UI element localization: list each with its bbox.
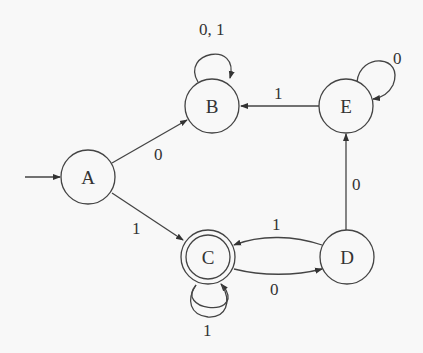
edge-label-c-c: 1 <box>203 321 212 340</box>
edge-label-a-c: 1 <box>132 219 141 238</box>
state-b: B <box>185 79 239 133</box>
state-e: E <box>319 79 373 133</box>
edge-b-b <box>195 54 232 82</box>
edge-label-a-b: 0 <box>154 145 163 164</box>
edge-d-c <box>234 237 322 245</box>
edge-c-c <box>192 284 228 308</box>
state-c-accepting: C <box>181 230 235 284</box>
edge-a-b <box>112 120 187 163</box>
dfa-diagram: 0 1 0, 1 1 0 1 0 1 0 A B <box>0 0 423 353</box>
state-label-c: C <box>202 247 215 268</box>
edge-a-c <box>112 193 183 240</box>
state-label-d: D <box>340 247 354 268</box>
state-label-a: A <box>81 167 95 188</box>
state-d: D <box>320 230 374 284</box>
state-label-e: E <box>340 96 352 117</box>
state-a: A <box>61 150 115 204</box>
edge-label-e-b: 1 <box>274 84 283 103</box>
edge-label-e-e: 0 <box>393 49 402 68</box>
edge-label-c-d: 0 <box>270 280 279 299</box>
state-label-b: B <box>206 96 219 117</box>
edge-label-b-b: 0, 1 <box>199 20 225 39</box>
edge-label-d-c: 1 <box>272 215 281 234</box>
edge-label-d-e: 0 <box>352 175 361 194</box>
edge-c-d <box>234 269 322 274</box>
